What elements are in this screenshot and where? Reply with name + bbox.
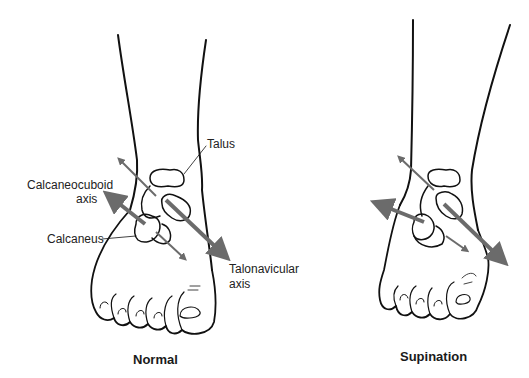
calcaneocuboid-axis-label-line1: Calcaneocuboid (27, 178, 113, 192)
supination-foot (379, 20, 510, 319)
talus-leader-line (184, 146, 206, 174)
normal-caption: Normal (133, 352, 178, 367)
supination-leg-left-outline (400, 20, 413, 205)
normal-big-toenail (180, 307, 200, 318)
supination-calcaneocuboid-axis-arrow (381, 205, 424, 222)
supination-leg-right-outline (471, 25, 510, 230)
supination-big-toenail (456, 295, 470, 305)
supination-calcaneus-short-arrow (446, 236, 466, 250)
normal-cuboid-bone (152, 224, 171, 244)
supination-navicular-bone (436, 192, 463, 219)
talonavicular-axis-label-line1: Talonavicular (229, 262, 299, 276)
talus-label: Talus (207, 137, 235, 151)
supination-caption: Supination (400, 349, 467, 364)
normal-calcaneocuboid-axis-arrow (112, 198, 145, 224)
normal-talonavicular-long-arrow (166, 200, 222, 253)
normal-leg-left-outline (118, 35, 137, 210)
calcaneus-label: Calcaneus (47, 232, 104, 246)
talonavicular-axis-label-line2: axis (229, 277, 250, 291)
supination-midbone (420, 186, 428, 216)
supination-talus-bone (428, 169, 460, 187)
supination-talonavicular-long-arrow (444, 204, 500, 258)
normal-talus-bone (150, 169, 184, 186)
calcaneocuboid-axis-label-line2: axis (76, 192, 97, 206)
calcaneus-leader-line (102, 236, 136, 239)
normal-axis-arrows (112, 160, 222, 258)
